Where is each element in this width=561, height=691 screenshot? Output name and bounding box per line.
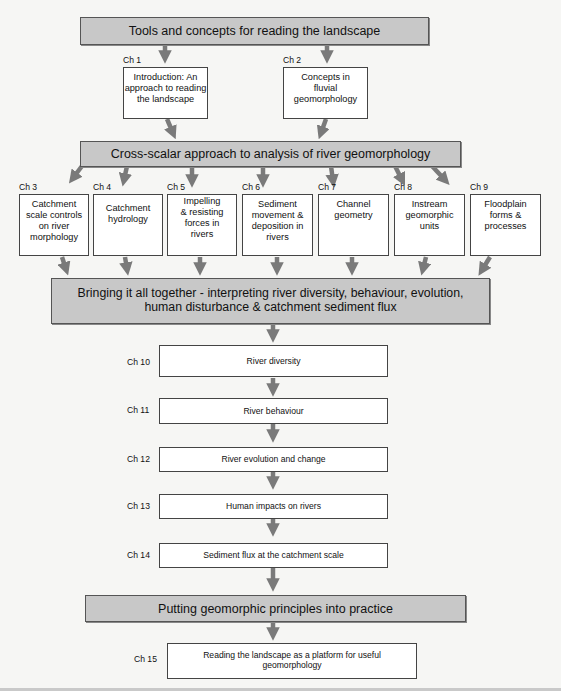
banner-putting-text: Putting geomorphic principles into pract… bbox=[158, 602, 393, 616]
ch5-title: Impelling & resisting forces in rivers bbox=[181, 196, 224, 239]
ch13-title: Human impacts on rivers bbox=[226, 501, 321, 511]
ch1-title: Introduction: An approach to reading the… bbox=[125, 72, 207, 104]
ch3-label: Ch 3 bbox=[19, 182, 37, 192]
banner-tools: Tools and concepts for reading the lands… bbox=[80, 17, 429, 45]
banner-cross-scalar: Cross-scalar approach to analysis of riv… bbox=[80, 141, 461, 167]
chapter-box-ch13: Human impacts on rivers bbox=[159, 494, 388, 519]
ch14-title: Sediment flux at the catchment scale bbox=[203, 550, 343, 560]
chapter-box-ch7: Channel geometry bbox=[318, 194, 389, 256]
chapter-box-ch8: Instream geomorphic units bbox=[394, 194, 465, 256]
ch13-label: Ch 13 bbox=[127, 501, 150, 511]
ch6-label: Ch 6 bbox=[242, 182, 260, 192]
banner-tools-text: Tools and concepts for reading the lands… bbox=[129, 24, 381, 38]
chapter-box-ch11: River behaviour bbox=[159, 398, 388, 424]
ch14-label: Ch 14 bbox=[127, 550, 150, 560]
ch4-label: Ch 4 bbox=[93, 182, 111, 192]
ch12-label: Ch 12 bbox=[127, 454, 150, 464]
ch10-label: Ch 10 bbox=[127, 357, 150, 367]
ch1-label: Ch 1 bbox=[123, 55, 141, 65]
ch9-label: Ch 9 bbox=[470, 182, 488, 192]
chapter-box-ch4: Catchment hydrology bbox=[93, 194, 163, 256]
chapter-box-ch2: Concepts in fluvial geomorphology bbox=[283, 67, 368, 119]
chapter-box-ch1: Introduction: An approach to reading the… bbox=[123, 67, 208, 119]
chapter-box-ch6: Sediment movement & deposition in rivers bbox=[242, 194, 313, 256]
chapter-box-ch10: River diversity bbox=[159, 345, 388, 377]
ch15-title: Reading the landscape as a platform for … bbox=[196, 651, 388, 671]
ch10-title: River diversity bbox=[247, 356, 301, 366]
banner-bringing-line1: Bringing it all together - interpreting … bbox=[78, 287, 464, 301]
ch5-label: Ch 5 bbox=[167, 182, 185, 192]
ch7-label: Ch 7 bbox=[318, 182, 336, 192]
ch2-label: Ch 2 bbox=[283, 55, 301, 65]
ch8-title: Instream geomorphic units bbox=[405, 199, 453, 231]
ch6-title: Sediment movement & deposition in rivers bbox=[252, 199, 304, 242]
ch7-title: Channel geometry bbox=[334, 199, 372, 220]
chapter-box-ch5: Impelling & resisting forces in rivers bbox=[167, 194, 237, 256]
ch3-title: Catchment scale controls on river morpho… bbox=[26, 199, 82, 242]
ch11-label: Ch 11 bbox=[127, 405, 149, 415]
ch4-title: Catchment hydrology bbox=[106, 203, 150, 224]
chapter-box-ch15: Reading the landscape as a platform for … bbox=[167, 643, 417, 679]
ch15-label: Ch 15 bbox=[134, 654, 157, 664]
chapter-box-ch14: Sediment flux at the catchment scale bbox=[159, 543, 388, 568]
banner-bringing-line2: human disturbance & catchment sediment f… bbox=[144, 301, 396, 315]
ch12-title: River evolution and change bbox=[221, 454, 325, 464]
banner-putting-into-practice: Putting geomorphic principles into pract… bbox=[85, 595, 466, 622]
chapter-box-ch12: River evolution and change bbox=[159, 447, 388, 472]
chapter-box-ch9: Floodplain forms & processes bbox=[470, 194, 541, 256]
ch8-label: Ch 8 bbox=[394, 182, 412, 192]
chapter-box-ch3: Catchment scale controls on river morpho… bbox=[19, 194, 89, 256]
ch11-title: River behaviour bbox=[243, 406, 303, 416]
ch9-title: Floodplain forms & processes bbox=[484, 199, 526, 231]
banner-cross-scalar-text: Cross-scalar approach to analysis of riv… bbox=[111, 147, 431, 161]
banner-bringing-together: Bringing it all together - interpreting … bbox=[51, 278, 490, 324]
ch2-title: Concepts in fluvial geomorphology bbox=[294, 72, 357, 104]
